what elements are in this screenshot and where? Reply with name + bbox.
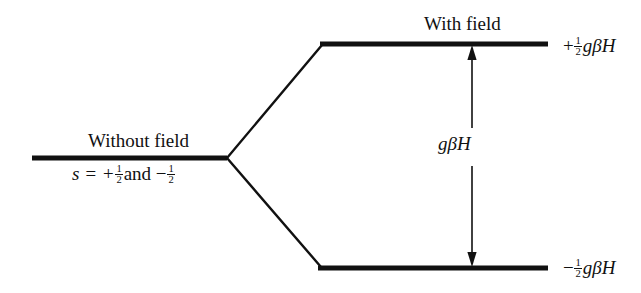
fraction-one-half-lower: 12 bbox=[574, 258, 582, 279]
lower-energy-sign: − bbox=[563, 257, 574, 278]
spin-states-prefix: s = + bbox=[72, 163, 115, 184]
connector-line-upper bbox=[227, 45, 322, 158]
lower-energy-term: gβH bbox=[583, 257, 616, 278]
zeeman-splitting-diagram: Without field s = +12and −12 With field … bbox=[0, 0, 641, 293]
label-without-field: Without field bbox=[88, 131, 189, 150]
fraction-one-half-upper: 12 bbox=[574, 36, 582, 57]
connector-line-lower bbox=[227, 158, 321, 267]
splitting-arrow-head-down bbox=[467, 252, 476, 267]
upper-energy-sign: + bbox=[563, 35, 574, 56]
label-with-field: With field bbox=[424, 14, 501, 33]
upper-energy-term: gβH bbox=[583, 35, 616, 56]
label-upper-energy: +12gβH bbox=[563, 36, 616, 57]
label-spin-states: s = +12and −12 bbox=[72, 164, 176, 185]
fraction-one-half-positive: 12 bbox=[115, 164, 123, 185]
label-lower-energy: −12gβH bbox=[563, 258, 616, 279]
fraction-one-half-negative: 12 bbox=[167, 164, 175, 185]
splitting-arrow-head-up bbox=[467, 45, 476, 60]
label-splitting-energy: gβH bbox=[438, 134, 471, 153]
spin-states-conjunction: and − bbox=[124, 163, 167, 184]
